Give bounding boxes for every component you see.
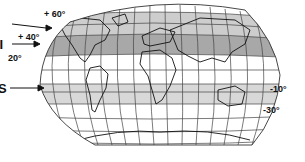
label-zone-s: S <box>0 82 7 95</box>
world-map <box>0 0 305 162</box>
label-lat-minus10: -10° <box>270 85 287 94</box>
label-lat-plus20: 20° <box>8 54 22 63</box>
label-zone-ii: II <box>0 38 3 51</box>
label-lat-minus30: -30° <box>263 106 280 115</box>
label-lat-plus40: + 40° <box>18 33 39 42</box>
band-10-30 <box>0 84 305 104</box>
label-lat-plus60: + 60° <box>44 10 65 19</box>
